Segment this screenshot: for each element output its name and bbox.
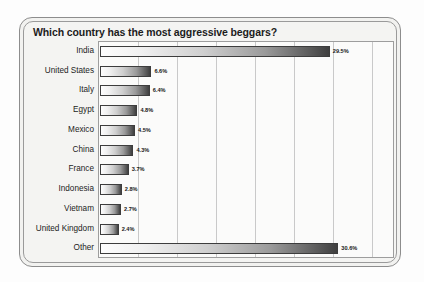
bar (100, 204, 121, 215)
bar-track: 30.6% (100, 239, 393, 258)
bar (100, 224, 119, 235)
bar-track: 3.7% (100, 160, 393, 180)
plot-area: 29.5%6.6%6.4%4.8%4.5%4.3%3.7%2.8%2.7%2.4… (98, 41, 394, 258)
bar-value-label: 6.4% (150, 85, 166, 96)
bar-value-label: 4.8% (137, 105, 153, 116)
category-label: France (28, 159, 94, 179)
bar-value-label: 2.8% (122, 184, 138, 195)
category-label-row: Other (28, 238, 97, 258)
bar-row: 2.4% (99, 220, 393, 240)
bar-row: 2.8% (99, 180, 393, 200)
bar-track: 2.8% (100, 180, 393, 200)
chart-title: Which country has the most aggressive be… (33, 26, 373, 38)
bar-row: 4.3% (99, 141, 393, 161)
category-label-row: United Kingdom (28, 219, 97, 239)
bar-track: 6.4% (100, 81, 393, 101)
category-label: India (28, 41, 94, 61)
bar-track: 4.8% (100, 101, 393, 121)
category-label-row: United States (28, 61, 97, 81)
bar-row: 29.5% (99, 42, 393, 62)
bar-row: 4.5% (99, 121, 393, 141)
category-label: Other (28, 238, 94, 258)
category-label: Vietnam (28, 199, 94, 219)
bar-row: 4.8% (99, 101, 393, 121)
category-label-row: Mexico (28, 120, 97, 140)
bar-track: 2.7% (100, 200, 393, 220)
bar (100, 105, 137, 116)
bar-value-label: 3.7% (129, 164, 145, 175)
bar-row: 30.6% (99, 239, 393, 258)
bar (100, 184, 122, 195)
bar-value-label: 2.7% (121, 204, 137, 215)
category-label: Indonesia (28, 179, 94, 199)
category-label-row: Egypt (28, 100, 97, 120)
category-label: China (28, 140, 94, 160)
bar-track: 4.5% (100, 121, 393, 141)
bar (100, 125, 135, 136)
category-label: United States (28, 61, 94, 81)
bar-value-label: 29.5% (330, 46, 349, 57)
bar-value-label: 4.5% (135, 125, 151, 136)
bar-track: 29.5% (100, 42, 393, 62)
category-label-row: Indonesia (28, 179, 97, 199)
bar-row: 2.7% (99, 200, 393, 220)
category-label-column: IndiaUnited StatesItalyEgyptMexicoChinaF… (28, 41, 97, 258)
bar-row: 6.6% (99, 62, 393, 82)
bar (100, 85, 150, 96)
category-label: Italy (28, 80, 94, 100)
bar-track: 4.3% (100, 141, 393, 161)
bar (100, 66, 151, 77)
bar-row: 3.7% (99, 160, 393, 180)
bar-value-label: 30.6% (338, 243, 357, 254)
category-label-row: Italy (28, 80, 97, 100)
bar-value-label: 2.4% (119, 224, 135, 235)
category-label-row: Vietnam (28, 199, 97, 219)
category-label: United Kingdom (28, 219, 94, 239)
category-label-row: India (28, 41, 97, 61)
bar (100, 164, 129, 175)
bar (100, 243, 338, 254)
bar-value-label: 6.6% (151, 66, 167, 77)
bar-track: 2.4% (100, 220, 393, 240)
bar-value-label: 4.3% (133, 145, 149, 156)
category-label-row: China (28, 140, 97, 160)
bar (100, 46, 330, 57)
category-label: Mexico (28, 120, 94, 140)
chart-page: Which country has the most aggressive be… (0, 0, 424, 282)
bar-row: 6.4% (99, 81, 393, 101)
category-label: Egypt (28, 100, 94, 120)
chart-body: IndiaUnited StatesItalyEgyptMexicoChinaF… (28, 41, 394, 258)
bar (100, 145, 133, 156)
bar-track: 6.6% (100, 62, 393, 82)
category-label-row: France (28, 159, 97, 179)
